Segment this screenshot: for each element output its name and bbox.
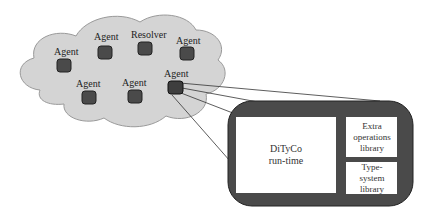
runtime-label-line2: run-time [269, 155, 304, 166]
architecture-diagram: Agent Agent Resolver Agent Agent Agent A… [0, 0, 428, 214]
type-system-label-line3: library [360, 184, 384, 194]
node-label: Agent [176, 35, 201, 46]
agent-network-cloud [20, 15, 225, 127]
node-label: Agent [164, 68, 189, 79]
agent-node[interactable] [128, 90, 142, 103]
resolver-node[interactable] [138, 42, 152, 55]
node-label: Resolver [131, 29, 167, 40]
type-system-label-line2: system [359, 173, 384, 183]
agent-node[interactable] [57, 59, 71, 72]
extra-ops-label-line1: Extra [362, 121, 382, 131]
runtime-label-line1: DiTyCo [270, 143, 302, 154]
agent-node-highlighted[interactable] [168, 81, 183, 94]
agent-node[interactable] [82, 91, 96, 104]
node-label: Agent [94, 31, 119, 42]
agent-node[interactable] [98, 46, 112, 59]
type-system-label-line1: Type- [362, 162, 383, 172]
extra-ops-label-line2: operations [353, 132, 391, 142]
agent-node[interactable] [180, 47, 194, 60]
agent-internal-container: DiTyCo run-time Extra operations library… [228, 101, 413, 206]
node-label: Agent [76, 78, 101, 89]
extra-ops-label-line3: library [360, 143, 384, 153]
node-label: Agent [54, 46, 79, 57]
node-label: Agent [122, 77, 147, 88]
